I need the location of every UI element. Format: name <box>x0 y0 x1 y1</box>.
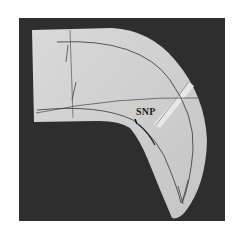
fabric-pattern-piece <box>0 0 244 237</box>
fabric-shape <box>32 28 207 218</box>
snp-label: SNP <box>136 106 156 117</box>
